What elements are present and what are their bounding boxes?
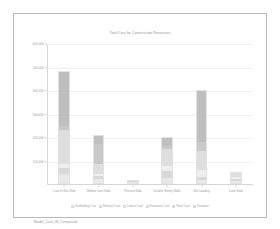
- bar-segment: [197, 142, 207, 151]
- x-tick-label: Double Storey Walls: [154, 189, 181, 193]
- legend-swatch-icon: [71, 205, 74, 208]
- legend-item[interactable]: Transport: [193, 204, 209, 208]
- bar-segment: [162, 138, 172, 146]
- bar-segment: [162, 171, 172, 179]
- bar-6[interactable]: [230, 172, 242, 184]
- legend-swatch-icon: [172, 205, 175, 208]
- bar-segment: [94, 164, 104, 173]
- legend-swatch-icon: [146, 205, 149, 208]
- legend-label: Transport: [197, 204, 209, 208]
- gridline: [47, 162, 253, 163]
- chart-title: Total Cost for Construction Resources: [14, 31, 266, 35]
- gridline: [47, 44, 253, 45]
- legend-label: Scaffolding Cost: [75, 204, 96, 208]
- bar-segment: [197, 91, 207, 142]
- bar-segment: [59, 72, 69, 125]
- x-tick-label: Precast Slab: [124, 189, 141, 193]
- y-tick-label: 200,000: [33, 136, 44, 140]
- figure-frame: Total Cost for Construction Resources 60…: [13, 13, 267, 218]
- bar-segment: [94, 179, 104, 183]
- gridline: [47, 138, 253, 139]
- y-tick-label: 100,000: [33, 160, 44, 164]
- legend-label: Labour Cost: [127, 204, 143, 208]
- bar-segment: [59, 174, 69, 183]
- bar-3[interactable]: [127, 180, 139, 184]
- bar-segment: [94, 136, 104, 145]
- y-tick-mark: [45, 138, 47, 139]
- plot-area: 600,000500,000400,000300,000200,000100,0…: [47, 44, 253, 185]
- bar-5[interactable]: [196, 90, 208, 184]
- legend-label: Plant Cost: [176, 204, 189, 208]
- bar-segment: [197, 151, 207, 171]
- legend-label: Material Cost: [103, 204, 120, 208]
- legend-item[interactable]: Formwork Cost: [146, 204, 170, 208]
- legend-swatch-icon: [99, 205, 102, 208]
- bar-1[interactable]: [58, 71, 70, 184]
- y-tick-mark: [45, 67, 47, 68]
- x-tick-label: Site Loading: [193, 189, 210, 193]
- x-tick-mark: [132, 185, 133, 187]
- bar-segment: [128, 182, 138, 183]
- x-tick-mark: [201, 185, 202, 187]
- gridline: [47, 115, 253, 116]
- bar-segment: [59, 130, 69, 164]
- bar-segment: [162, 178, 172, 183]
- legend-item[interactable]: Labour Cost: [123, 204, 143, 208]
- y-tick-label: 300,000: [33, 113, 44, 117]
- legend-item[interactable]: Material Cost: [99, 204, 120, 208]
- y-tick-mark: [45, 44, 47, 45]
- bar-2[interactable]: [93, 135, 105, 184]
- y-tick-mark: [45, 114, 47, 115]
- y-tick-mark: [45, 91, 47, 92]
- y-tick-label: 400,000: [33, 89, 44, 93]
- legend-label: Formwork Cost: [150, 204, 170, 208]
- bar-segment: [94, 144, 104, 164]
- y-tick-label: 600,000: [33, 42, 44, 46]
- x-axis-line: [47, 184, 253, 185]
- legend-swatch-icon: [193, 205, 196, 208]
- x-tick-label: Lane Slab: [229, 189, 243, 193]
- legend-item[interactable]: Scaffolding Cost: [71, 204, 96, 208]
- bar-segment: [162, 149, 172, 166]
- x-tick-label: Cast In Situ Slab: [53, 189, 75, 193]
- chart-legend: Scaffolding CostMaterial CostLabour Cost…: [14, 204, 266, 208]
- x-tick-mark: [167, 185, 168, 187]
- bar-4[interactable]: [161, 137, 173, 184]
- bar-segment: [197, 180, 207, 183]
- figure-caption: Model_Cost_W_Compared: [34, 220, 77, 224]
- gridline: [47, 91, 253, 92]
- bar-segment: [231, 181, 241, 183]
- y-tick-mark: [45, 161, 47, 162]
- x-tick-mark: [64, 185, 65, 187]
- x-tick-mark: [235, 185, 236, 187]
- y-tick-label: 500,000: [33, 66, 44, 70]
- legend-swatch-icon: [123, 205, 126, 208]
- legend-item[interactable]: Plant Cost: [172, 204, 189, 208]
- x-tick-label: Hollow Core Slab: [87, 189, 110, 193]
- x-tick-mark: [98, 185, 99, 187]
- gridline: [47, 68, 253, 69]
